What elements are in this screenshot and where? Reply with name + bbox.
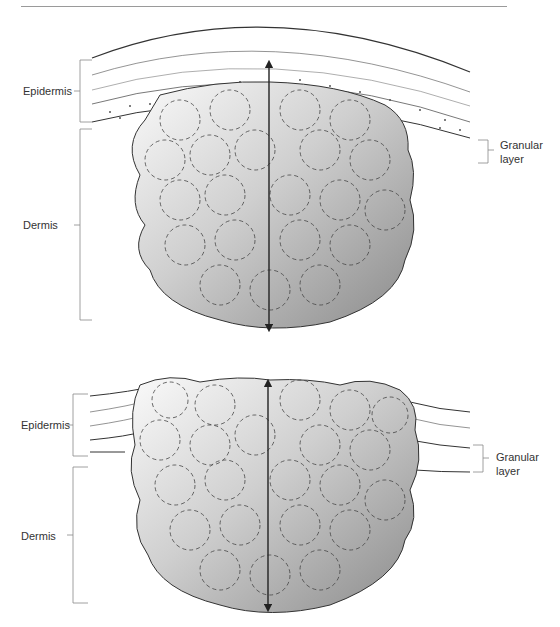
- dermis-label: Dermis: [21, 530, 56, 543]
- granular-bracket: [473, 445, 483, 472]
- bottom-panel: [67, 378, 489, 613]
- granular-layer-label-line2: layer: [500, 153, 524, 166]
- dermis-label: Dermis: [23, 219, 58, 232]
- dermis-bracket: [73, 467, 88, 603]
- granular-bracket: [478, 140, 488, 163]
- granular-layer-label: Granular: [500, 139, 543, 152]
- epidermis-label: Epidermis: [23, 85, 72, 98]
- top-panel: [74, 27, 494, 328]
- granular-layer-label: Granular: [496, 451, 539, 464]
- granular-layer-label-line2: layer: [496, 465, 520, 478]
- dermis-bracket: [80, 129, 92, 320]
- epidermis-bracket: [73, 394, 88, 456]
- diagram-canvas: [0, 0, 560, 627]
- epidermis-bracket: [80, 60, 92, 122]
- epidermis-label: Epidermis: [21, 419, 70, 432]
